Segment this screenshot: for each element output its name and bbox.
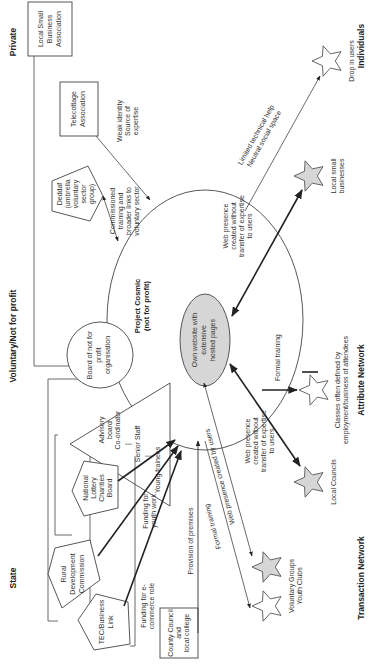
star-local-small-biz: [294, 161, 323, 191]
councils-label: Local Councils: [330, 459, 337, 505]
deddaf-5: group): [88, 184, 96, 204]
advisory-1: Advisory: [98, 416, 106, 443]
inner-line-1: Own website with: [191, 313, 198, 368]
header-private: Private: [8, 28, 18, 57]
wp-sb-1: Web presence: [222, 203, 230, 248]
vg-label-1: Voluntary Groups: [288, 558, 296, 613]
header-state: State: [8, 567, 18, 588]
tele-1: Telecottage: [70, 91, 78, 127]
board-text-2: profit: [95, 347, 103, 363]
board-text-3: organisation: [104, 336, 112, 374]
star-classes: [299, 375, 328, 405]
star-voluntary-groups: [252, 552, 281, 582]
cc-1: County Council: [167, 609, 175, 657]
commissioned-2: training and: [117, 193, 125, 230]
funding-youth-1: Funding for: [142, 493, 150, 529]
wp-lc-2: created without: [252, 417, 259, 465]
hub-title-1: Project Cosmic: [133, 279, 142, 334]
star-youth-clubs: [252, 591, 281, 621]
star-drop-in-users: [312, 46, 341, 76]
advisory-4: |: [124, 443, 132, 445]
rdc-1: Rural: [60, 565, 67, 582]
header-voluntary: Voluntary/Not for profit: [8, 289, 18, 382]
board-text-1: Board of not for: [86, 330, 93, 379]
wp-lc-1: Web presence: [244, 418, 252, 463]
cc-2: and: [175, 627, 182, 639]
wp-sb-3: transfer of expertise: [238, 195, 246, 257]
connector-ecommerce: [130, 456, 135, 646]
network-diagram: State Voluntary/Not for profit Private T…: [0, 0, 376, 666]
nlcb-4: Board: [106, 479, 113, 498]
commissioned-3: broader links to: [125, 187, 132, 235]
cc-3: local college: [183, 614, 191, 653]
classes-label-2: employment/business of attendees: [342, 335, 350, 444]
tec-1: TEC/Business: [98, 599, 105, 644]
hub-title-2: (not for profit): [142, 281, 151, 331]
nlcb-1: National: [82, 475, 89, 501]
label-individuals: Individuals: [356, 24, 366, 69]
lsba-3: Association: [55, 11, 62, 47]
weak-identity-3: expertise: [132, 107, 140, 136]
classes-label-1: Classes often defined by: [334, 351, 342, 428]
funding-ecom-2: commerce role: [148, 583, 155, 629]
commissioned-1: Commissioned: [109, 188, 116, 234]
lsba-2: Business: [46, 14, 53, 43]
advisory-3: Co-ordinator: [114, 410, 121, 450]
advisory-2: board: [106, 421, 113, 439]
funding-ecom-1: Funding for e-: [140, 584, 148, 628]
drop-in-label: Drop in users: [348, 40, 356, 82]
deddaf-3: voluntary: [72, 179, 80, 208]
wp-lc-4: to users: [268, 428, 275, 453]
inner-line-3: hosted pages: [209, 318, 217, 361]
vg-label-2: Youth Clubs: [296, 567, 303, 605]
inner-line-2: extensive: [200, 325, 207, 355]
nlcb-3: Charities: [98, 474, 105, 502]
deddaf-1: Deddaf: [56, 183, 63, 206]
tele-2: Association: [79, 91, 86, 127]
wp-sb-2: created without: [230, 202, 237, 250]
formal-training-classes: Formal training: [274, 334, 282, 381]
weak-identity-2: Source of: [124, 106, 131, 136]
formal-training-bottom: Formal training: [203, 503, 223, 550]
deddaf-4: sector: [80, 184, 87, 204]
lsb-label-1: Local small: [330, 158, 337, 193]
weak-identity-1: Weak identity: [116, 100, 124, 142]
rdc-3: Commission: [78, 555, 85, 594]
commissioned-4: voluntary sector: [133, 186, 141, 236]
lsba-1: Local Small: [37, 10, 44, 47]
deddaf-2: (umbrella: [64, 179, 72, 208]
star-local-councils: [294, 467, 323, 497]
rdc-2: Development: [69, 553, 77, 594]
provision-premises: Provision of premises: [187, 507, 195, 574]
wp-sb-4: to users: [246, 213, 253, 238]
label-transaction-network: Transaction Network: [356, 536, 366, 620]
label-attribute-network: Attribute Network: [356, 344, 366, 416]
nlcb-2: Lottery: [90, 477, 98, 499]
connector-advisory-lottery: [55, 435, 72, 535]
funding-youth-2: youth work: [150, 494, 158, 528]
wp-lc-3: transfer of expertise: [260, 410, 268, 472]
arrow-telecottage: [96, 136, 150, 200]
lsb-label-2: businesses: [338, 158, 345, 194]
tec-2: Link: [107, 615, 114, 628]
